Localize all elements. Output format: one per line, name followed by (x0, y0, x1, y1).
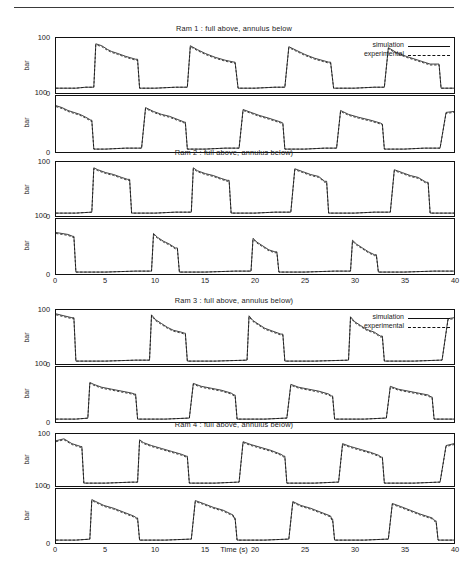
sim-curve (56, 233, 454, 273)
xtick-15: 15 (195, 276, 215, 285)
sim-curve (56, 439, 454, 483)
ram-2-panel-annulus-below (55, 218, 455, 275)
legend-swatch-experimental (408, 327, 450, 328)
x-axis-label: Time (s) (0, 545, 468, 554)
ram-4-lower-ytick-top: 100 (22, 481, 47, 490)
ram-3-lower-plot (56, 367, 454, 422)
exp-curve (56, 440, 454, 483)
exp-curve (56, 383, 454, 419)
ram-4-panel-annulus-below (55, 488, 455, 544)
exp-curve (56, 233, 454, 272)
ram-3-upper-ylabel: bar (23, 326, 30, 350)
xtick-35: 35 (395, 276, 415, 285)
sim-curve (56, 500, 454, 540)
xtick-10: 10 (145, 276, 165, 285)
ram-4-upper-plot (56, 434, 454, 486)
ram-2-lower-ylabel: bar (23, 234, 30, 258)
ram-2-panel-full-above (55, 161, 455, 217)
xtick-0: 0 (45, 276, 65, 285)
ram-2-lower-ytick-top: 100 (22, 211, 47, 220)
ram-4-lower-ylabel: bar (23, 504, 30, 528)
ram-4-upper-ylabel: bar (23, 448, 30, 472)
figure-ram-pressure-plots: Ram 1 : full above, annulus below 100 ba… (0, 0, 468, 574)
sim-curve (56, 106, 454, 149)
legend-swatch-simulation (408, 46, 450, 47)
ram-3-upper-ytick-top: 100 (22, 305, 50, 314)
legend-label-simulation: simulation (372, 41, 404, 48)
legend-label-experimental: experimental (364, 50, 404, 57)
ram-3-panel-annulus-below (55, 366, 455, 423)
ram-1-lower-ylabel: bar (23, 111, 30, 135)
legend-swatch-simulation (408, 318, 450, 319)
xtick-40: 40 (445, 276, 465, 285)
ram-3-legend: simulation experimental (300, 313, 450, 331)
exp-curve (56, 501, 454, 541)
ram-4-upper-ytick-top: 100 (22, 429, 50, 438)
ram-2-upper-plot (56, 162, 454, 216)
ram-2-lower-plot (56, 219, 454, 274)
ram-2-title: Ram 2 : full above, annulus below) (0, 148, 468, 157)
xtick-5: 5 (95, 276, 115, 285)
ram-1-title: Ram 1 : full above, annulus below (0, 24, 468, 33)
ram-3-lower-ylabel: bar (23, 382, 30, 406)
legend-label-simulation: simulation (372, 313, 404, 320)
exp-curve (56, 107, 454, 149)
xtick-20: 20 (245, 276, 265, 285)
sim-curve (56, 382, 454, 419)
ram-3-lower-ytick-top: 100 (22, 359, 47, 368)
xtick-30: 30 (345, 276, 365, 285)
ram-1-lower-plot (56, 96, 454, 152)
xtick-25: 25 (295, 276, 315, 285)
ram-1-legend: simulation experimental (300, 41, 450, 59)
legend-label-experimental: experimental (364, 322, 404, 329)
ram-4-lower-plot (56, 489, 454, 543)
ram-4-panel-full-above (55, 433, 455, 487)
ram-4-title: Ram 4 : full above, annulus below) (0, 420, 468, 429)
ram-3-title: Ram 3 : full above, annulus below) (0, 296, 468, 305)
ram-2-upper-ytick-top: 100 (22, 157, 50, 166)
ram-1-upper-ylabel: bar (23, 54, 30, 78)
ram-2-upper-ylabel: bar (23, 178, 30, 202)
ram-1-panel-annulus-below (55, 95, 455, 153)
legend-swatch-experimental (408, 55, 450, 56)
ram-1-lower-ytick-top: 100 (22, 88, 47, 97)
ram-1-upper-ytick-top: 100 (22, 33, 50, 42)
